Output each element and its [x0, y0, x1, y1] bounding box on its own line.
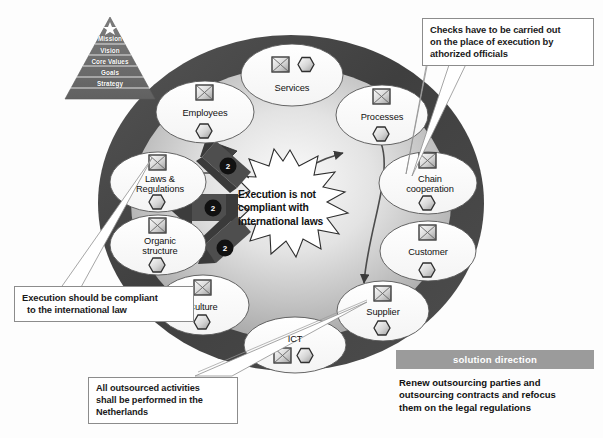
node-label-supplier: Supplier — [366, 307, 399, 317]
square-icon — [194, 280, 211, 295]
square-icon — [149, 218, 166, 233]
callout-checks-line-2: on the place of execution by — [430, 36, 586, 48]
pyramid-tier-strategy: Strategy — [97, 80, 123, 87]
solution-line-2: outsourcing contracts and refocus — [399, 389, 591, 402]
node-label-customer: Customer — [408, 247, 448, 257]
diagram-canvas: Mission Vision Core Values Goals Strateg… — [0, 0, 603, 438]
hexagon-icon — [419, 263, 435, 277]
node-label-services: Services — [275, 83, 310, 93]
pyramid-tier-mission: Mission — [98, 35, 122, 42]
hexagon-icon — [373, 127, 389, 141]
impact-badge-culture: 2 — [223, 244, 227, 253]
callout-outsourced-line-2: shall be performed in the — [96, 395, 230, 407]
callout-compliant[interactable]: Execution should be compliant to the int… — [14, 286, 194, 322]
burst-line-1: Execution is not — [238, 188, 374, 201]
hexagon-icon — [196, 124, 212, 138]
node-services[interactable] — [241, 44, 343, 106]
callout-outsourced-line-1: All outsourced activities — [96, 383, 230, 395]
square-icon — [272, 57, 289, 72]
square-icon — [374, 286, 391, 301]
square-icon — [149, 155, 166, 170]
callout-compliant-line-2: to the international law — [22, 304, 186, 316]
callout-outsourced[interactable]: All outsourced activities shall be perfo… — [88, 377, 238, 424]
burst-line-2: compliant with — [238, 201, 374, 214]
pyramid-tier-core-values: Core Values — [91, 58, 128, 65]
burst-line-3: international laws — [238, 215, 374, 228]
node-label-chain-cooperation: Chain cooperation — [406, 174, 454, 195]
solution-direction-panel[interactable]: solution direction Renew outsourcing par… — [396, 350, 594, 415]
node-ict[interactable] — [244, 317, 346, 373]
solution-line-3: them on the legal regulations — [399, 402, 591, 415]
callout-checks-line-1: Checks have to be carried out — [430, 24, 586, 36]
impact-badge-organic: 2 — [211, 204, 215, 213]
solution-direction-header: solution direction — [396, 350, 594, 369]
node-label-employees: Employees — [182, 108, 227, 118]
node-label-laws-regulations: Laws & Regulations — [136, 174, 184, 195]
callout-checks-line-3: athorized officials — [430, 48, 586, 60]
callout-compliant-line-1: Execution should be compliant — [22, 292, 186, 304]
central-burst-text: Execution is not compliant with internat… — [238, 188, 374, 228]
impact-badge-laws: 2 — [226, 162, 230, 171]
node-label-processes: Processes — [361, 112, 404, 122]
node-label-ict: ICT — [288, 334, 303, 344]
square-icon — [196, 85, 213, 100]
hexagon-icon — [374, 321, 390, 335]
pyramid-tier-goals: Goals — [101, 69, 119, 76]
callout-checks[interactable]: Checks have to be carried out on the pla… — [422, 18, 594, 66]
hexagon-icon — [149, 195, 165, 209]
square-icon — [373, 89, 390, 104]
hexagon-icon — [297, 349, 313, 363]
hexagon-icon — [298, 58, 314, 72]
solution-direction-body: Renew outsourcing parties and outsourcin… — [396, 369, 594, 416]
node-label-organic-structure: Organic structure — [142, 236, 177, 257]
solution-line-1: Renew outsourcing parties and — [399, 377, 591, 390]
callout-outsourced-line-3: Netherlands — [96, 407, 230, 419]
pyramid-tier-vision: Vision — [100, 47, 119, 54]
square-icon — [419, 225, 436, 240]
hexagon-icon — [149, 258, 165, 272]
hexagon-icon — [419, 196, 435, 210]
hexagon-icon — [194, 315, 210, 329]
